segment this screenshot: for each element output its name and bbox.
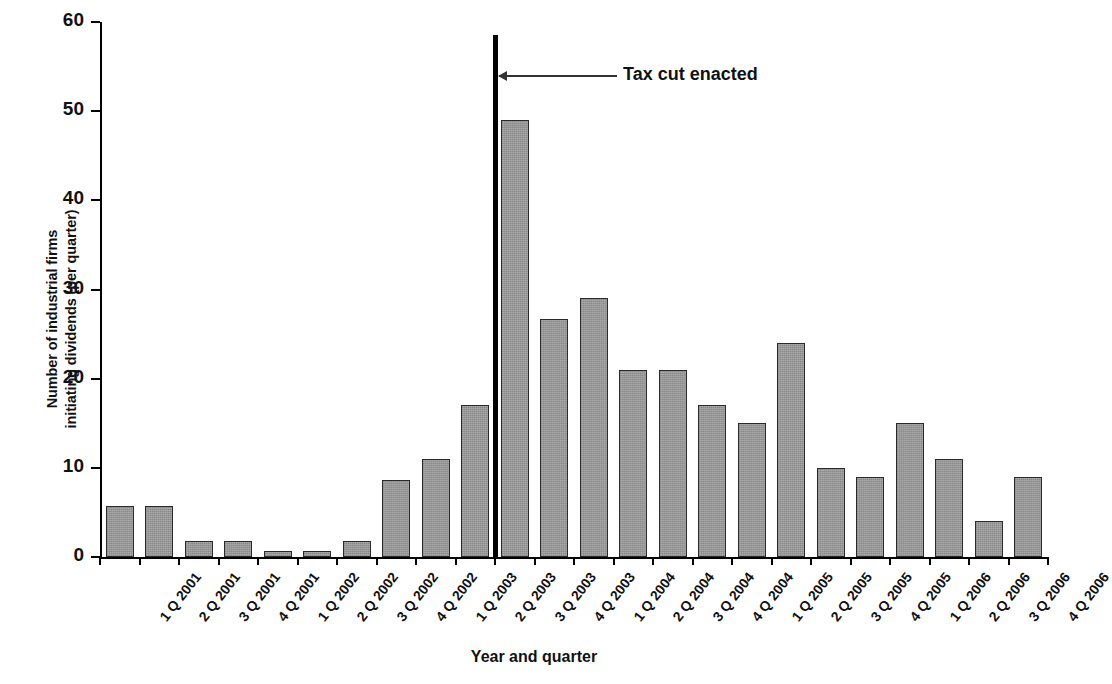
bar [264,551,292,557]
bar [935,459,963,557]
x-axis-tick [178,557,180,565]
y-axis-tick [91,21,100,23]
y-axis-tick-label: 50 [40,98,84,120]
bar [382,480,410,557]
x-axis-title: Year and quarter [0,648,1068,666]
y-axis-tick [91,199,100,201]
bar [224,541,252,557]
bar [185,541,213,557]
bar [461,405,489,557]
x-axis-tick [455,557,457,565]
bar [817,468,845,557]
bar [501,120,529,557]
x-axis-tick [573,557,575,565]
bar [896,423,924,557]
y-axis-tick [91,110,100,112]
bar [856,477,884,557]
bar [145,506,173,557]
x-axis-tick [968,557,970,565]
x-axis-tick [613,557,615,565]
bar [106,506,134,557]
x-axis-tick [889,557,891,565]
x-axis-tick [534,557,536,565]
y-axis-tick-label: 30 [40,277,84,299]
x-axis-tick [139,557,141,565]
bar [698,405,726,557]
x-axis-tick [810,557,812,565]
bar [659,370,687,557]
bar [343,541,371,557]
bar [619,370,647,557]
plot-area: Tax cut enacted [100,22,1048,557]
y-axis-tick-label: 60 [40,9,84,31]
x-axis-tick [257,557,259,565]
x-axis-tick [494,557,496,565]
x-axis-tick [771,557,773,565]
x-axis-tick [731,557,733,565]
bar [777,343,805,557]
x-axis-tick [1008,557,1010,565]
x-axis-tick [1047,557,1049,565]
bar [540,319,568,557]
x-axis-tick [336,557,338,565]
x-axis-tick [99,557,101,565]
y-axis-tick-label: 40 [40,187,84,209]
x-axis-tick [218,557,220,565]
tax-cut-event-line [493,35,498,557]
y-axis-tick [91,378,100,380]
x-axis-tick [652,557,654,565]
bar [303,551,331,557]
x-axis-tick [929,557,931,565]
bar [738,423,766,557]
bar [1014,477,1042,557]
x-axis-tick [415,557,417,565]
bar [975,521,1003,557]
y-axis-tick [91,289,100,291]
bar [580,298,608,557]
x-axis-tick [376,557,378,565]
x-axis-tick [297,557,299,565]
x-axis-tick [692,557,694,565]
tax-cut-arrow-icon [499,75,617,77]
y-axis-line [100,22,102,557]
tax-cut-annotation-label: Tax cut enacted [623,64,758,85]
y-axis-tick-label: 0 [40,544,84,566]
y-axis-tick-label: 20 [40,366,84,388]
y-axis-tick [91,467,100,469]
bar [422,459,450,557]
x-axis-tick [850,557,852,565]
y-axis-tick-label: 10 [40,455,84,477]
